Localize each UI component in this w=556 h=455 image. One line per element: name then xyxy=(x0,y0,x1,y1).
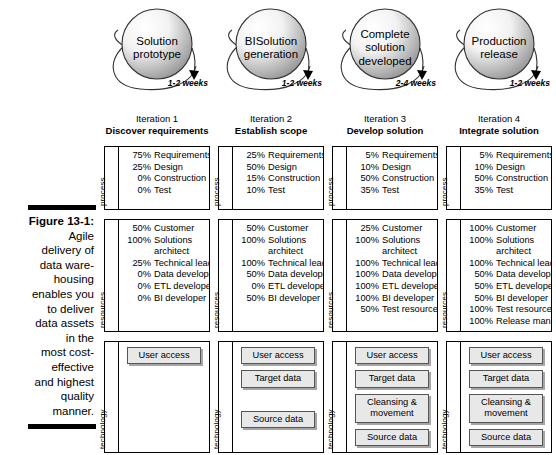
technology-item[interactable]: Source data xyxy=(355,429,429,446)
metric-row: 100%Technical lead xyxy=(463,258,547,270)
band-content: 100%Customer100%Solutionsarchitect100%Te… xyxy=(461,220,551,331)
band-content: 50%Customer100%Solutionsarchitect25%Tech… xyxy=(119,220,209,331)
caption-line: Agile xyxy=(0,229,94,244)
technology-item[interactable]: User access xyxy=(127,347,201,364)
metric-percent: 75% xyxy=(121,150,154,162)
technology-item[interactable]: Source data xyxy=(469,429,543,446)
caption-line: effective xyxy=(0,360,94,375)
metric-row: 50%Customer xyxy=(235,223,319,235)
metric-row: 0%BI developer xyxy=(121,293,205,305)
technology-item[interactable]: User access xyxy=(469,347,543,364)
iteration-sphere: BISolutiongeneration1-2 weeks xyxy=(214,0,328,96)
metric-row: 100%Data developer xyxy=(349,269,433,281)
row-label-process: process xyxy=(447,147,461,209)
technology-item[interactable]: Source data xyxy=(241,411,315,428)
row-label-text: process xyxy=(98,177,107,206)
metric-row: 50%Construction xyxy=(463,173,547,185)
row-label-process: process xyxy=(219,147,233,209)
metric-percent: 25% xyxy=(121,258,154,270)
row-label-text: resources xyxy=(98,292,107,328)
row-label-text: resources xyxy=(326,292,335,328)
metric-label: Construction xyxy=(268,173,320,185)
metric-percent: 100% xyxy=(463,235,496,247)
technology-item[interactable]: Target data xyxy=(355,370,429,387)
metric-percent: 100% xyxy=(349,281,382,293)
iteration-sphere: Completesolutiondeveloped2-4 weeks xyxy=(328,0,442,96)
metric-row: 50%Test resources xyxy=(349,304,433,316)
metric-percent: 100% xyxy=(349,293,382,305)
metric-label: Data developer xyxy=(496,269,551,281)
metric-label: Release manager xyxy=(496,316,551,328)
row-label-text: technology xyxy=(326,409,335,449)
iteration-number: Iteration 4 xyxy=(442,113,556,125)
metric-label: Test xyxy=(268,185,319,197)
iteration-number: Iteration 2 xyxy=(214,113,328,125)
metric-row: 25%Requirements xyxy=(235,150,319,162)
row-label-resources: resources xyxy=(105,220,119,331)
metric-row: 100%Solutions xyxy=(349,235,433,247)
metric-percent: 100% xyxy=(121,235,154,247)
metric-percent: 50% xyxy=(235,223,268,235)
technology-item[interactable]: Target data xyxy=(241,370,315,387)
metric-label: Test resources xyxy=(382,304,437,316)
technology-item[interactable]: Cleansing &movement xyxy=(469,394,543,423)
metric-percent: 50% xyxy=(349,304,382,316)
resources-box: resources50%Customer100%Solutionsarchite… xyxy=(104,219,210,332)
caption-line: most cost- xyxy=(0,345,94,360)
technology-item[interactable]: User access xyxy=(241,347,315,364)
metric-percent: 25% xyxy=(349,223,382,235)
metric-row: 50%ETL developer xyxy=(463,281,547,293)
metric-label: Test resources xyxy=(496,304,551,316)
row-label-process: process xyxy=(105,147,119,209)
metric-label: Data developer xyxy=(268,269,323,281)
metric-row: 100%BI developer xyxy=(349,293,433,305)
technology-item[interactable]: Target data xyxy=(469,370,543,387)
iteration-number: Iteration 3 xyxy=(328,113,442,125)
metric-label: BI developer xyxy=(496,293,548,305)
metric-row: 0%Data developer xyxy=(121,269,205,281)
metric-label: Data developer xyxy=(382,269,437,281)
metric-label: Customer xyxy=(496,223,547,235)
technology-item[interactable]: Cleansing &movement xyxy=(355,394,429,423)
row-label-technology: technology xyxy=(447,342,461,452)
metric-label: Construction xyxy=(382,173,434,185)
caption-line: to deliver xyxy=(0,302,94,317)
iteration-column: BISolutiongeneration1-2 weeksIteration 2… xyxy=(214,0,328,455)
metric-label: ETL developer xyxy=(382,281,437,293)
resources-box: resources25%Customer100%Solutionsarchite… xyxy=(332,219,438,332)
iteration-header: Completesolutiondeveloped2-4 weeksIterat… xyxy=(328,0,442,112)
technology-box: technologyUser access xyxy=(104,341,210,453)
metric-label-continuation: architect xyxy=(235,246,319,258)
technology-item[interactable]: User access xyxy=(355,347,429,364)
metric-label: Test xyxy=(382,185,433,197)
row-label-resources: resources xyxy=(447,220,461,331)
caption-line: quality xyxy=(0,389,94,404)
row-label-technology: technology xyxy=(105,342,119,452)
figure-caption-block: Figure 13-1: Agile delivery of data ware… xyxy=(0,205,98,429)
metric-percent: 15% xyxy=(235,173,268,185)
band-content: 25%Requirements50%Design15%Construction1… xyxy=(233,147,323,209)
metric-percent: 100% xyxy=(463,316,496,328)
metric-list: 5%Requirements10%Design50%Construction35… xyxy=(347,147,437,198)
metric-label: BI developer xyxy=(382,293,434,305)
metric-label: Requirements xyxy=(496,150,551,162)
metric-label: Technical lead xyxy=(496,258,551,270)
band-content: User accessTarget dataCleansing &movemen… xyxy=(347,342,437,452)
metric-percent: 50% xyxy=(235,293,268,305)
metric-percent: 50% xyxy=(235,162,268,174)
iteration-duration: 1-2 weeks xyxy=(168,78,208,88)
technology-spacer xyxy=(233,394,323,411)
metric-percent: 0% xyxy=(121,293,154,305)
metric-label: BI developer xyxy=(268,293,320,305)
metric-label: Customer xyxy=(268,223,319,235)
caption-text: Figure 13-1: Agile delivery of data ware… xyxy=(0,210,98,418)
metric-row: 50%Design xyxy=(235,162,319,174)
metric-row: 50%Construction xyxy=(349,173,433,185)
metric-row: 100%ETL developer xyxy=(349,281,433,293)
band-content: 5%Requirements10%Design50%Construction35… xyxy=(461,147,551,209)
iteration-columns: Solutionprototype1-2 weeksIteration 1Dis… xyxy=(100,0,556,455)
metric-label: ETL developer xyxy=(496,281,551,293)
iteration-number: Iteration 1 xyxy=(100,113,214,125)
metric-percent: 50% xyxy=(121,223,154,235)
metric-row: 50%BI developer xyxy=(235,293,319,305)
